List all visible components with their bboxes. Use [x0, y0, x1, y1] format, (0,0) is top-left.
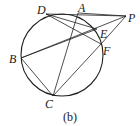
point-label-e: E [99, 27, 108, 41]
segment-AC [53, 13, 78, 96]
segment-DE [46, 14, 97, 29]
segment-CF [53, 44, 101, 96]
figure-caption: (b) [63, 110, 77, 124]
point-label-d: D [36, 3, 46, 17]
point-label-c: C [45, 97, 54, 111]
point-label-p: P [127, 11, 136, 25]
point-label-f: F [102, 44, 111, 58]
point-label-a: A [77, 1, 86, 15]
segment-BE [21, 29, 97, 58]
segment-BC [21, 58, 53, 96]
geometry-figure: DAPEFBC (b) [0, 0, 140, 126]
point-label-b: B [9, 52, 17, 66]
